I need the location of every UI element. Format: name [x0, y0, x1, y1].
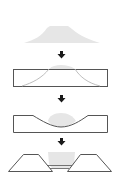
- step-1-mound: [24, 26, 100, 43]
- mound-shape: [24, 26, 100, 43]
- left-trapezoid: [9, 155, 53, 172]
- mound-outline-left: [22, 69, 49, 86]
- step-3-block-with-depression: [14, 113, 108, 133]
- arrow-down-icon: [58, 95, 66, 103]
- arrow-down-icon: [58, 138, 66, 146]
- process-diagram: [0, 0, 125, 192]
- step-4-split-blocks: [9, 152, 112, 172]
- mound-top-fill: [49, 65, 75, 69]
- arrow-down-icon: [58, 51, 66, 59]
- mound-outline-right: [75, 69, 100, 86]
- step-2-block-with-mound: [14, 65, 108, 87]
